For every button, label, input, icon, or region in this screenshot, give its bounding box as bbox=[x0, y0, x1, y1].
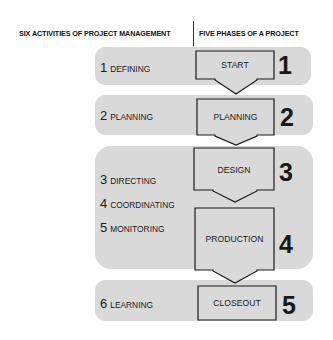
phase-box-design bbox=[194, 148, 274, 202]
activity-number: 4 bbox=[100, 196, 107, 211]
phase-box-start bbox=[196, 51, 274, 94]
activity-label: DEFINING bbox=[110, 64, 150, 74]
activity-label: PLANNING bbox=[110, 112, 153, 122]
activity-monitoring: 5MONITORING bbox=[100, 218, 165, 236]
phase-number-5: 5 bbox=[282, 291, 296, 320]
activity-number: 6 bbox=[100, 296, 107, 311]
activity-number: 1 bbox=[100, 60, 107, 75]
phase-number-4: 4 bbox=[279, 230, 293, 259]
phase-label-planning: PLANNING bbox=[197, 112, 274, 122]
activity-label: MONITORING bbox=[110, 224, 164, 234]
phase-label-closeout: CLOSEOUT bbox=[198, 298, 276, 308]
phase-number-2: 2 bbox=[280, 103, 294, 132]
activity-number: 3 bbox=[100, 172, 107, 187]
activity-number: 5 bbox=[100, 220, 107, 235]
phase-box-planning bbox=[197, 99, 274, 145]
activity-label: DIRECTING bbox=[110, 176, 156, 186]
activity-label: COORDINATING bbox=[110, 200, 175, 210]
phase-number-1: 1 bbox=[278, 51, 292, 80]
activity-label: LEARNING bbox=[110, 300, 153, 310]
activity-coordinating: 4COORDINATING bbox=[100, 194, 175, 212]
activity-learning: 6LEARNING bbox=[100, 294, 153, 312]
activity-directing: 3DIRECTING bbox=[100, 170, 156, 188]
phase-box-production bbox=[195, 208, 274, 283]
phase-label-start: START bbox=[196, 60, 274, 70]
phase-number-3: 3 bbox=[279, 158, 293, 187]
activity-defining: 1DEFINING bbox=[100, 58, 150, 76]
phase-label-production: PRODUCTION bbox=[195, 234, 274, 244]
activity-number: 2 bbox=[100, 108, 107, 123]
activity-planning: 2PLANNING bbox=[100, 106, 153, 124]
phase-label-design: DESIGN bbox=[194, 165, 274, 175]
